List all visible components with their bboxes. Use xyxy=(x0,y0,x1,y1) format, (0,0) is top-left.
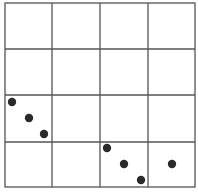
dot-7 xyxy=(168,160,176,168)
dot-4 xyxy=(103,144,111,152)
dot-3 xyxy=(40,130,48,138)
dot-2 xyxy=(25,114,33,122)
dot-6 xyxy=(137,176,145,184)
dot-1 xyxy=(8,98,16,106)
dots-layer xyxy=(8,98,176,184)
dot-5 xyxy=(120,160,128,168)
grid-lines xyxy=(5,3,195,187)
grid-diagram xyxy=(0,0,198,194)
